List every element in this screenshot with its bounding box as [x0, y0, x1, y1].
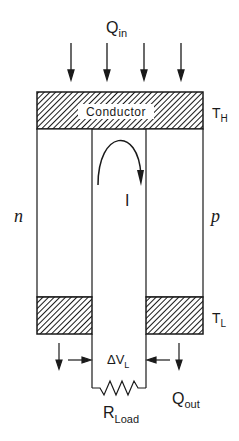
thermoelectric-diagram: Qin Conductor TH n p I TL — [0, 0, 239, 441]
n-leg-label: n — [14, 206, 23, 226]
hot-temp-label: TH — [212, 105, 228, 124]
p-leg — [146, 129, 203, 297]
heat-in-arrows — [68, 43, 184, 80]
bottom-right-conductor — [146, 297, 203, 334]
heat-out-label: Qout — [172, 390, 200, 410]
voltage-label: ΔVL — [107, 352, 129, 370]
heat-in-label: Qin — [106, 19, 127, 39]
bottom-left-conductor — [37, 297, 92, 334]
current-label: I — [125, 192, 129, 209]
p-leg-label: p — [209, 206, 220, 226]
load-label: RLoad — [103, 404, 139, 425]
current-loop-icon — [98, 140, 141, 185]
conductor-label: Conductor — [86, 105, 146, 119]
n-leg — [37, 129, 92, 297]
cold-temp-label: TL — [212, 310, 227, 329]
